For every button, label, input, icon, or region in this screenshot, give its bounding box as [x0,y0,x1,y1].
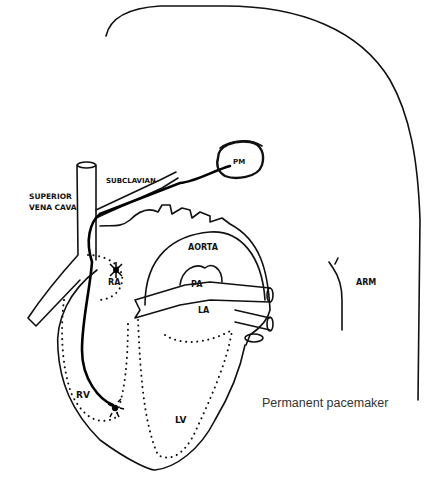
pacemaker-lead [82,166,230,405]
label-aorta: AORTA [188,243,219,252]
atrial-electrode [110,262,122,278]
label-arm: ARM [356,278,376,287]
label-superior: SUPERIOR [29,192,72,201]
shoulder-outline [106,6,420,400]
label-lv: LV [175,415,186,425]
label-vena-cava: VENA CAVA [29,203,77,212]
pacemaker-diagram: SUPERIOR VENA CAVA SUBCLAVIAN PM AORTA P… [0,0,437,500]
label-la: LA [198,306,210,315]
label-rv: RV [76,390,90,400]
label-subclavian: SUBCLAVIAN [106,177,156,185]
ventricular-electrode [108,399,124,417]
label-pacemaker: PM [233,158,245,166]
label-ra: RA [108,278,121,287]
label-pa: PA [191,280,203,289]
pulmonary-vein-end [267,317,273,331]
figure-caption: Permanent pacemaker [262,396,388,410]
left-ventricle-outline [138,320,232,458]
aorta-descending-end [245,334,263,342]
left-atrium-outline [165,330,232,342]
arm-crease [329,258,342,330]
